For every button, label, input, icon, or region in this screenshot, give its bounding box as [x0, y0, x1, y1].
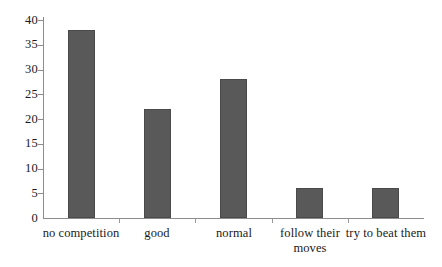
bar-chart: 0510152025303540 no competitiongoodnorma… — [0, 0, 442, 267]
bar — [144, 109, 171, 218]
bar — [68, 30, 95, 218]
bar — [220, 79, 247, 218]
bar — [372, 188, 399, 218]
x-axis-category-label: try to beat them — [336, 226, 436, 241]
bar — [296, 188, 323, 218]
